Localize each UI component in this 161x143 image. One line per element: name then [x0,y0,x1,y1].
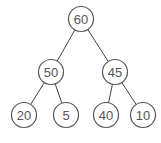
node-label: 5 [62,108,69,123]
tree-node: 5 [54,103,79,128]
tree-node: 45 [103,60,128,85]
binary-tree-diagram: 6050452054010 [0,0,161,143]
tree-node: 20 [12,103,37,128]
node-label: 40 [99,108,113,123]
node-label: 10 [136,108,150,123]
tree-node: 40 [94,103,119,128]
tree-node: 10 [131,103,156,128]
tree-svg: 6050452054010 [0,0,161,143]
node-label: 20 [17,108,31,123]
node-label: 50 [44,65,58,80]
tree-node: 60 [69,7,94,32]
node-label: 45 [108,65,122,80]
tree-node: 50 [39,60,64,85]
tree-nodes: 6050452054010 [12,7,156,128]
node-label: 60 [74,12,88,27]
